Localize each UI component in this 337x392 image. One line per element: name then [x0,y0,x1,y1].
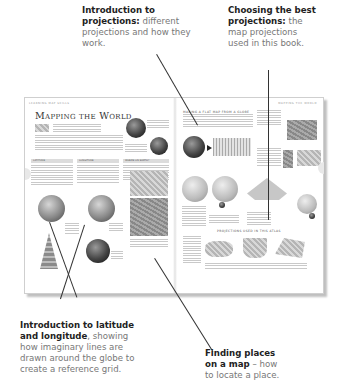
azimuthal-globe-1 [182,176,208,202]
page-tab-right [318,162,324,174]
callout-finding-places: Finding places on a map – how to locate … [205,348,285,381]
longitude-caption [109,223,123,233]
projections-side-text [183,236,201,264]
column-heading-where: WHERE ON EARTH? [123,159,169,163]
desk-globe-photo [150,137,168,155]
right-side-text [257,110,281,126]
projection-map-1 [205,241,233,257]
longitude-globe [88,195,115,222]
projection-captions [205,263,307,269]
azimuthal-globe-2 [212,176,238,202]
cone-projection-image [247,178,287,200]
desk-globe-caption [125,144,147,152]
callout-latlong-intro: Introduction to latitude and longitude, … [20,320,135,375]
leader-line-best-projections [268,70,269,220]
callout-best-projections-bold: Choosing the best projections: [228,5,316,26]
spread-gutter [173,98,177,293]
projections-used-heading: PROJECTIONS USED IN THIS ATLAS [217,229,281,233]
page-title: Mapping the World [35,110,132,121]
right-intro-text [183,114,253,128]
callout-best-projections: Choosing the best projections: the map p… [228,5,316,49]
book-spread-image: LEARNING MAP SKILLS MAPPING THE WORLD Ma… [24,97,324,294]
latitude-globe [38,195,65,222]
map-grid-caption [130,239,168,247]
intro-text [53,124,101,134]
left-running-head: LEARNING MAP SKILLS [29,102,70,105]
arrow-icon [207,145,212,151]
cylinder-text [257,148,281,166]
segments-caption [111,251,123,261]
right-map-image-1 [287,120,317,140]
cylinder-image [283,150,293,168]
intro-text-wide [35,135,123,151]
latitude-caption [65,223,79,235]
longitude-text [77,165,119,183]
globe-caption [147,120,169,128]
map-grid-image-2 [130,198,168,236]
plane-caption [209,215,239,223]
azimuthal-caption [182,206,206,226]
projection-map-3 [275,238,305,258]
cylinder-map-image [297,150,321,166]
flat-map-strips [213,138,251,156]
projection-map-2 [243,238,267,258]
map-grid-image-1 [130,171,168,196]
callout-projections-intro: Introduction to projections: different p… [82,5,202,49]
cone-globe [297,194,317,214]
small-dark-globe-2 [309,213,315,219]
latitude-text [31,165,73,187]
right-running-head: MAPPING THE WORLD [278,102,317,105]
small-dark-globe-1 [219,202,225,208]
globe-photo [126,118,146,138]
column-heading-latitude: LATITUDE [31,159,73,163]
title-thumbnail [35,124,49,132]
column-heading-longitude: LONGITUDE [77,159,119,163]
flat-map-globe [183,136,205,158]
longitude-segments-globe [86,239,110,263]
